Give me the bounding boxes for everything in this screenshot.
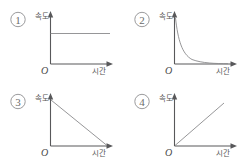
origin-label-2: O [165, 65, 172, 76]
curve-linear-decreasing [51, 100, 107, 146]
option-number-4: 4 [139, 96, 145, 108]
x-axis-arrow-1 [107, 61, 114, 66]
y-axis-label-2: 속도 [159, 12, 173, 21]
x-axis-arrow-4 [231, 143, 238, 148]
option-number-3: 3 [15, 96, 21, 108]
velocity-time-graph-figure: 1 속도 O 시간 2 속도 O 시간 [0, 0, 248, 164]
option-panel-3[interactable]: 3 속도 O 시간 [0, 82, 124, 164]
y-axis-label-3: 속도 [35, 94, 49, 103]
origin-label-4: O [165, 147, 172, 158]
option-panel-2[interactable]: 2 속도 O 시간 [124, 0, 248, 82]
curve-linear-increasing [175, 103, 224, 146]
origin-label-1: O [41, 65, 48, 76]
option-panel-1[interactable]: 1 속도 O 시간 [0, 0, 124, 82]
x-axis-label-1: 시간 [92, 66, 106, 76]
x-axis-label-2: 시간 [216, 66, 230, 76]
option-number-1: 1 [15, 14, 21, 26]
option-number-2: 2 [139, 14, 145, 26]
y-axis-label-1: 속도 [35, 12, 49, 21]
option-panel-4[interactable]: 4 속도 O 시간 [124, 82, 248, 164]
x-axis-arrow-3 [107, 143, 114, 148]
x-axis-label-3: 시간 [92, 148, 106, 158]
x-axis-arrow-2 [231, 61, 238, 66]
x-axis-label-4: 시간 [216, 148, 230, 158]
origin-label-3: O [41, 147, 48, 158]
y-axis-label-4: 속도 [159, 94, 173, 103]
curve-exponential-decay [176, 18, 229, 64]
